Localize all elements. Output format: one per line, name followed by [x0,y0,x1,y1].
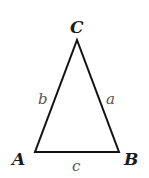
triangle-diagram: C A B b a c [0,0,149,178]
vertex-label-b: B [123,149,138,169]
vertex-label-c: C [70,17,84,37]
side-label-a: a [106,90,115,108]
side-label-b: b [38,90,48,108]
vertex-label-a: A [10,149,25,169]
side-label-c: c [72,157,81,175]
